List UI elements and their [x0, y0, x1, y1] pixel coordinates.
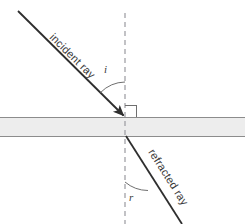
- angle-of-refraction-label: r: [129, 191, 134, 203]
- glass-slab-body: [0, 117, 245, 137]
- refraction-diagram-canvas: incident ray refracted ray i r: [0, 0, 245, 224]
- glass-slab: [0, 117, 245, 137]
- angle-of-incidence-arc: [101, 82, 126, 93]
- refraction-diagram: incident ray refracted ray i r: [0, 0, 245, 224]
- incident-ray-line: [18, 11, 124, 116]
- incident-ray-label: incident ray: [48, 31, 98, 81]
- angle-of-refraction-arc: [125, 182, 148, 191]
- right-angle-marker: [125, 106, 137, 118]
- angle-of-incidence-label: i: [104, 63, 107, 75]
